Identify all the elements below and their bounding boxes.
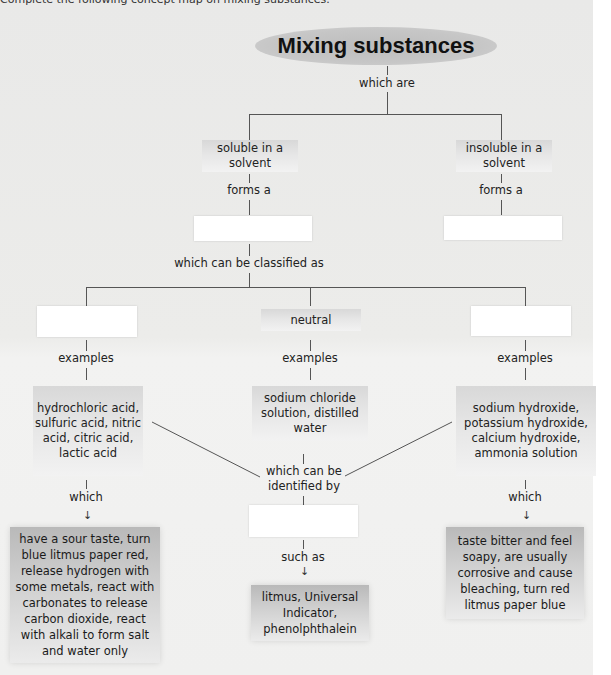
- arrow-down-icon: ↓: [83, 510, 92, 521]
- node-acid-properties: have a sour taste, turn blue litmus pape…: [10, 527, 160, 663]
- node-indicator-examples: litmus, Universal Indicator, phenolphtha…: [251, 585, 369, 641]
- node-alkali-properties: taste bitter and feel soapy, are usually…: [446, 527, 584, 619]
- arrow-down-icon: ↓: [300, 566, 309, 577]
- connector: [303, 540, 304, 549]
- connector: [86, 480, 87, 489]
- connector: [525, 480, 526, 489]
- link-which-alkali: which: [485, 490, 565, 505]
- connector: [303, 496, 304, 505]
- blank-box-indicator[interactable]: [249, 505, 358, 537]
- arrow-down-icon: ↓: [522, 510, 531, 521]
- link-such-as: such as: [263, 550, 343, 565]
- connector: [303, 454, 304, 464]
- link-identified-by: which can be identified by: [258, 464, 350, 494]
- link-which-acid: which: [46, 490, 126, 505]
- worksheet-page: Complete the following concept map on mi…: [0, 0, 593, 675]
